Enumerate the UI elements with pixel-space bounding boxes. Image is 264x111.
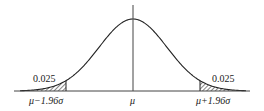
- mean-label: μ: [130, 96, 135, 106]
- right-cutoff-label: μ+1.96σ: [196, 96, 230, 106]
- left-tail-area-label: 0.025: [33, 74, 56, 84]
- left-cutoff-label: μ−1.96σ: [29, 96, 63, 106]
- normal-distribution-figure: 0.025 0.025 μ−1.96σ μ μ+1.96σ: [0, 0, 264, 111]
- right-tail-area-label: 0.025: [212, 74, 235, 84]
